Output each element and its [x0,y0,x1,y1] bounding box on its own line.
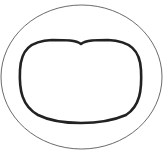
diagram-canvas [0,0,164,159]
inner-rounded-shape [20,40,141,123]
outer-ellipse [1,5,162,149]
